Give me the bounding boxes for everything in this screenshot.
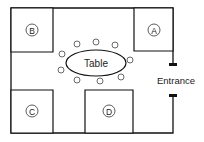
room-d-label: D xyxy=(106,107,112,117)
room-d: D xyxy=(85,90,133,133)
floor-plan: B A C D Table Entrance xyxy=(0,0,204,142)
door-marker-top xyxy=(169,63,177,66)
chair xyxy=(59,51,65,57)
chair xyxy=(93,39,99,45)
entrance-label: Entrance xyxy=(157,75,195,86)
chair xyxy=(118,74,124,80)
room-a: A xyxy=(134,8,173,51)
chair xyxy=(97,78,103,84)
table: Table xyxy=(66,50,126,76)
chair xyxy=(112,42,118,48)
chair xyxy=(74,41,80,47)
room-c-label: C xyxy=(29,107,35,117)
table-label: Table xyxy=(84,58,108,69)
chair xyxy=(127,57,133,63)
room-a-label: A xyxy=(151,26,157,36)
room-b-label: B xyxy=(29,26,35,36)
door-marker-bottom xyxy=(169,94,177,97)
room-c: C xyxy=(11,90,53,133)
chair xyxy=(74,77,80,83)
room-b: B xyxy=(11,8,53,52)
chair xyxy=(58,67,64,73)
